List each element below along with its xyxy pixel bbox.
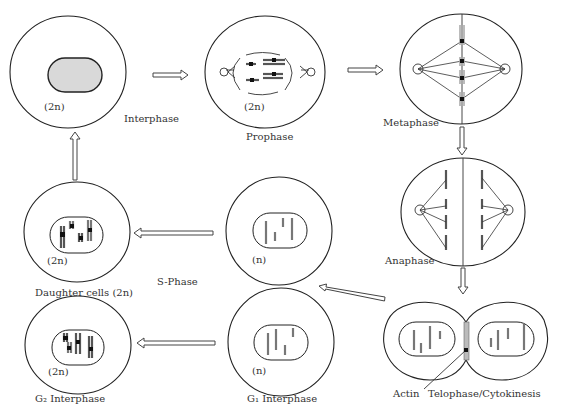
arrow-diagonal-icon — [319, 284, 385, 301]
prophase-cell: (2n) Prophase — [205, 16, 325, 142]
stage-label-metaphase: Metaphase — [383, 117, 439, 128]
interphase-cell: (2n) Interphase — [10, 16, 179, 128]
cell-cycle-diagram: (2n) Interphase (2n) Prophase — [0, 0, 561, 419]
stage-label-anaphase: Anaphase — [384, 255, 435, 266]
arrow-up-icon — [70, 132, 80, 180]
telophase-cell: Actin Telophase/Cytokinesis — [384, 302, 548, 399]
arrow-right-icon — [348, 65, 383, 75]
nucleus — [50, 217, 103, 253]
actin-marker — [464, 348, 468, 352]
stage-label-interphase: Interphase — [124, 113, 179, 124]
ploidy-label: (2n) — [47, 255, 68, 266]
ploidy-label: (2n) — [48, 366, 69, 377]
arrow-right-icon — [153, 70, 188, 80]
g2-interphase-cell: (2n) G₂ Interphase — [25, 296, 131, 404]
metaphase-cell: Metaphase — [383, 14, 522, 128]
ploidy-label: (n) — [252, 254, 266, 265]
ploidy-label: (2n) — [244, 101, 265, 112]
arrow-left-icon — [137, 338, 215, 348]
nucleus — [52, 330, 104, 365]
nucleus — [399, 322, 455, 356]
arrow-down-icon — [458, 268, 468, 294]
contractile-ring — [464, 322, 469, 360]
anaphase-cell: Anaphase — [384, 158, 525, 266]
arrow-left-icon — [134, 228, 213, 238]
nucleus — [254, 325, 308, 360]
ploidy-label: (2n) — [44, 101, 65, 112]
stage-label-g2: G₂ Interphase — [35, 393, 105, 404]
arrow-down-icon — [457, 127, 467, 155]
nucleus — [478, 322, 534, 356]
daughter-cell: (2n) Daughter cells (2n) — [24, 182, 133, 298]
nucleus — [253, 213, 307, 248]
stage-label-s-phase: S-Phase — [157, 276, 198, 287]
nucleus — [48, 58, 102, 92]
stage-label-prophase: Prophase — [246, 131, 293, 142]
stage-label-telophase: Telophase/Cytokinesis — [428, 388, 541, 399]
g1-interphase-cell: (n) G₁ Interphase — [228, 288, 334, 404]
ploidy-label: (n) — [252, 365, 266, 376]
chromosomes — [459, 25, 465, 106]
annotation-actin: Actin — [392, 388, 420, 399]
stage-label-g1: G₁ Interphase — [247, 393, 317, 404]
